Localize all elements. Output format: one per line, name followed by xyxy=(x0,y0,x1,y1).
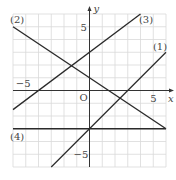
y-axis-arrow-icon xyxy=(88,6,92,11)
x-tick-label: −5 xyxy=(16,78,31,89)
line-label: (2) xyxy=(10,14,24,25)
line-label: (3) xyxy=(139,14,153,25)
y-tick-label: −5 xyxy=(74,149,89,160)
coordinate-plane: (1)(2)(3)(4)−555−5Oxy xyxy=(0,0,176,180)
x-axis-label: x xyxy=(168,93,174,104)
y-tick-label: 5 xyxy=(81,22,87,33)
y-axis-label: y xyxy=(93,3,100,14)
line-label: (4) xyxy=(10,131,24,142)
origin-label: O xyxy=(80,92,88,103)
graph-line-1 xyxy=(51,52,166,167)
x-tick-label: 5 xyxy=(150,93,156,104)
line-label: (1) xyxy=(153,41,167,52)
axes xyxy=(13,6,174,167)
